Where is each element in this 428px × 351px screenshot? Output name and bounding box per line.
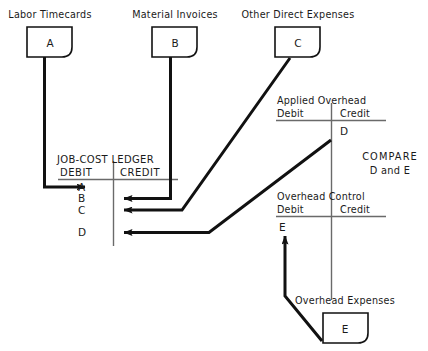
ledger-title: JOB-COST LEDGER xyxy=(57,155,154,165)
ledger-debit-entry-c: C xyxy=(78,205,85,216)
compare-note-line1: COMPARE xyxy=(362,152,418,162)
document-letter-c: C xyxy=(294,38,301,49)
ledger-debit-entry-d: D xyxy=(78,227,86,238)
document-caption-material-invoices: Material Invoices xyxy=(132,10,218,20)
ledger-credit-header: CREDIT xyxy=(120,168,160,178)
applied-overhead-debit-header: Debit xyxy=(277,109,304,119)
job-cost-flow-diagram: Labor Timecards A Material Invoices B Ot… xyxy=(0,0,428,351)
flow-line-d xyxy=(124,140,331,233)
document-caption-other-direct-expenses: Other Direct Expenses xyxy=(241,10,354,20)
applied-overhead-title: Applied Overhead xyxy=(277,96,366,106)
flow-line-e xyxy=(285,236,322,341)
ledger-debit-entry-a: A xyxy=(78,182,85,193)
applied-overhead-credit-header: Credit xyxy=(340,109,370,119)
document-letter-e: E xyxy=(342,324,349,335)
document-letter-a: A xyxy=(46,38,53,49)
overhead-control-debit-entry-e: E xyxy=(279,222,286,233)
overhead-control-credit-header: Credit xyxy=(340,205,370,215)
overhead-control-debit-header: Debit xyxy=(277,205,304,215)
compare-note-line2: D and E xyxy=(370,166,411,176)
document-caption-labor-timecards: Labor Timecards xyxy=(8,10,91,20)
flow-line-c xyxy=(124,58,290,210)
overhead-control-title: Overhead Control xyxy=(277,192,365,202)
ledger-debit-entry-b: B xyxy=(78,193,85,204)
document-letter-b: B xyxy=(171,38,178,49)
ledger-debit-header: DEBIT xyxy=(60,168,92,178)
applied-overhead-credit-entry-d: D xyxy=(340,126,348,137)
document-caption-overhead-expenses: Overhead Expenses xyxy=(295,296,395,306)
